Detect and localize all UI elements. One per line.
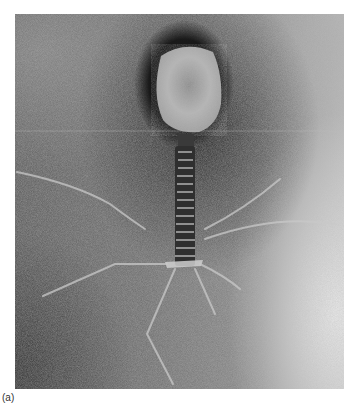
phage-illustration <box>15 14 344 389</box>
head-texture <box>151 44 227 136</box>
micrograph-image <box>15 14 344 389</box>
phage-collar <box>178 134 194 148</box>
figure-label: (a) <box>2 392 14 403</box>
